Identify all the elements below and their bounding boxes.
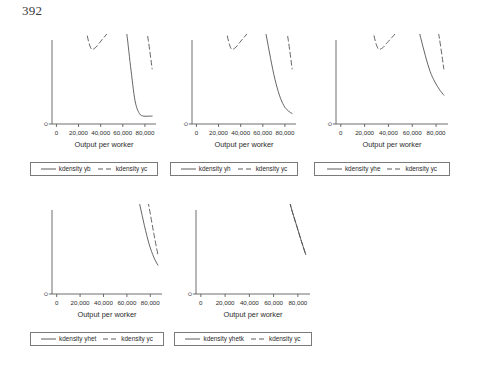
x-tick-label: 0 [199,299,203,306]
legend-label: kdensity yhetk [203,336,244,342]
chart-legend: kdensity yhekdensity yc [314,162,450,176]
plot-container: 0.00001.00002.00003020,00040,00060,00080… [162,34,302,154]
legend-entry: kdensity yc [103,336,153,342]
page-number: 392 [22,3,42,19]
chart-panel-yhe: 0.00001.00002.00003020,00040,00060,00080… [306,34,454,190]
chart-panel-yhet: 0.00001.00002.00003020,00040,00060,00080… [22,204,168,360]
legend-solid-line-icon [185,337,200,341]
series-line [195,34,292,69]
x-axis-title: Output per worker [77,310,137,319]
x-tick-label: 80,000 [427,129,446,136]
chart-legend: kdensity yhetkkdensity yc [174,332,312,346]
x-tick-label: 20,000 [69,129,88,136]
legend-label: kdensity yc [116,166,148,172]
plot-area: 0.00001.00002.00003020,00040,00060,00080… [166,204,316,324]
chart-legend: kdensity ybkdensity yc [30,162,158,176]
x-tick-label: 0 [55,299,59,306]
plot-container: 0.00001.00002.00003020,00040,00060,00080… [22,204,168,324]
y-tick-label: 0 [186,292,193,296]
x-axis-title: Output per worker [362,140,422,149]
legend-entry: kdensity yhe [327,166,381,172]
legend-label: kdensity yh [199,166,231,172]
legend-label: kdensity yc [121,336,153,342]
x-axis-title: Output per worker [223,310,283,319]
plot-area: 0.00001.00002.00003020,00040,00060,00080… [306,34,454,154]
legend-dashed-line-icon [103,337,118,341]
legend-entry: kdensity yhetk [185,336,244,342]
series-line [55,34,152,116]
plot-area: 0.00001.00002.00003020,00040,00060,00080… [22,34,162,154]
legend-entry: kdensity yc [387,166,437,172]
chart-panel-yh: 0.00001.00002.00003020,00040,00060,00080… [162,34,302,190]
x-tick-label: 80,000 [275,129,294,136]
legend-dashed-line-icon [98,167,113,171]
series-line [199,204,306,255]
legend-label: kdensity yhe [345,166,381,172]
series-line [55,204,158,265]
x-tick-label: 40,000 [379,129,398,136]
plot-container: 0.00001.00002.00003020,00040,00060,00080… [306,34,454,154]
y-tick-label: 0 [326,122,333,126]
x-tick-label: 80,000 [141,299,160,306]
series-line [55,34,152,69]
x-tick-label: 0 [195,129,199,136]
x-tick-label: 20,000 [71,299,90,306]
legend-entry: kdensity yb [41,166,91,172]
series-line [339,34,444,69]
x-tick-label: 0 [339,129,343,136]
legend-solid-line-icon [41,337,56,341]
series-line [199,204,306,255]
legend-solid-line-icon [327,167,342,171]
legend-label: kdensity yb [59,166,91,172]
x-tick-label: 60,000 [253,129,272,136]
legend-entry: kdensity yc [98,166,148,172]
legend-label: kdensity yhet [59,336,96,342]
x-tick-label: 40,000 [91,129,110,136]
legend-solid-line-icon [41,167,56,171]
plot-container: 0.00001.00002.00003020,00040,00060,00080… [166,204,316,324]
x-tick-label: 20,000 [216,299,235,306]
x-tick-label: 20,000 [209,129,228,136]
x-tick-label: 20,000 [355,129,374,136]
plot-area: 0.00001.00002.00003020,00040,00060,00080… [22,204,168,324]
legend-label: kdensity yc [269,336,301,342]
legend-entry: kdensity yh [181,166,231,172]
chart-panel-yb: 0.00001.00002.00003020,00040,00060,00080… [22,34,162,190]
legend-solid-line-icon [181,167,196,171]
y-tick-label: 0 [42,292,49,296]
x-axis-title: Output per worker [214,140,274,149]
series-line [195,34,292,114]
x-tick-label: 40,000 [94,299,113,306]
chart-legend: kdensity yhkdensity yc [170,162,298,176]
x-tick-label: 60,000 [403,129,422,136]
legend-entry: kdensity yc [251,336,301,342]
chart-legend: kdensity yhetkdensity yc [30,332,164,346]
plot-container: 0.00001.00002.00003020,00040,00060,00080… [22,34,162,154]
x-tick-label: 60,000 [264,299,283,306]
x-tick-label: 60,000 [117,299,136,306]
legend-entry: kdensity yhet [41,336,96,342]
legend-dashed-line-icon [238,167,253,171]
y-tick-label: 0 [42,122,49,126]
y-tick-label: 0 [182,122,189,126]
x-tick-label: 60,000 [113,129,132,136]
x-tick-label: 80,000 [288,299,307,306]
chart-panel-yhetk: 0.00001.00002.00003020,00040,00060,00080… [166,204,316,360]
x-tick-label: 40,000 [231,129,250,136]
series-line [55,204,158,255]
legend-label: kdensity yc [405,166,437,172]
legend-dashed-line-icon [387,167,402,171]
plot-area: 0.00001.00002.00003020,00040,00060,00080… [162,34,302,154]
series-line [339,34,444,95]
legend-dashed-line-icon [251,337,266,341]
x-tick-label: 0 [55,129,59,136]
x-tick-label: 40,000 [240,299,259,306]
legend-label: kdensity yc [256,166,288,172]
legend-entry: kdensity yc [238,166,288,172]
x-tick-label: 80,000 [135,129,154,136]
x-axis-title: Output per worker [74,140,134,149]
